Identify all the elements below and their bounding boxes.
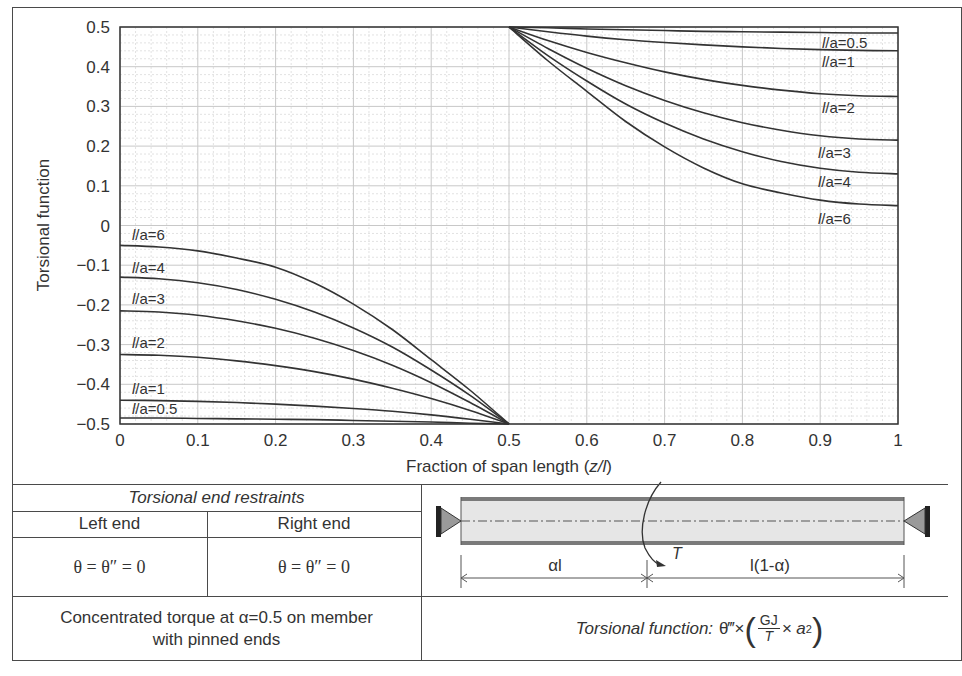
left-end-header: Left end [12, 511, 207, 537]
case-description-line2: with pinned ends [153, 629, 281, 651]
curve-label: l/a=4 [818, 173, 851, 190]
y-tick-label: −0.3 [76, 336, 110, 355]
beam-diagram: T αl l(1-α) [436, 482, 930, 588]
case-description-line1: Concentrated torque at α=0.5 on member [60, 607, 373, 629]
y-tick-label: −0.5 [76, 415, 110, 434]
curve-label: l/a=1 [132, 380, 165, 397]
y-tick-label: 0 [101, 217, 110, 236]
left-pin-support-icon [436, 506, 461, 537]
right-pin-support-icon [904, 506, 930, 537]
dimension-lines [461, 555, 904, 588]
y-tick-label: −0.4 [76, 375, 110, 394]
y-tick-label: 0.2 [86, 137, 110, 156]
curve-label: l/a=6 [818, 210, 851, 227]
left-end-condition: θ = θ″ = 0 [12, 537, 207, 596]
curve-label: l/a=0.5 [132, 400, 177, 417]
y-tick-label: 0.5 [86, 18, 110, 37]
x-tick-label: 0.2 [264, 431, 288, 450]
x-tick-label: 0 [115, 431, 124, 450]
y-tick-label: −0.1 [76, 256, 110, 275]
x-axis-title: Fraction of span length (z/l) [406, 457, 612, 476]
curve-l-a-0.5 [120, 418, 509, 424]
dimension-l-one-minus-alpha: l(1-α) [750, 556, 790, 575]
curve-l-a-3 [120, 311, 509, 424]
x-tick-label: 0.3 [342, 431, 366, 450]
curve-label: l/a=2 [132, 334, 165, 351]
formula-numerator: GJ [758, 613, 780, 629]
y-tick-label: 0.4 [86, 58, 110, 77]
right-end-condition: θ = θ″ = 0 [207, 537, 421, 596]
case-description: Concentrated torque at α=0.5 on member w… [12, 596, 421, 661]
dimension-alpha-l: αl [548, 556, 562, 575]
formula-prefix: Torsional function: [576, 618, 713, 640]
formula-theta: θ‴× [719, 618, 744, 640]
x-tick-label: 0.4 [419, 431, 443, 450]
curve-labels-left: l/a=6l/a=4l/a=3l/a=2l/a=1l/a=0.5 [132, 226, 177, 417]
curve-label: l/a=6 [132, 226, 165, 243]
beam-top-flange [461, 497, 904, 501]
formula-denominator: T [764, 629, 773, 644]
x-tick-label: 0.6 [575, 431, 599, 450]
y-tick-label: −0.2 [76, 296, 110, 315]
formula-open-paren: ( [744, 612, 755, 646]
curve-l-a-6 [120, 245, 509, 424]
restraints-header: Torsional end restraints [12, 484, 421, 511]
x-tick-label: 0.1 [186, 431, 210, 450]
curve-label: l/a=3 [818, 144, 851, 161]
curve-l-a-2 [120, 355, 509, 424]
curve-label: l/a=1 [822, 53, 855, 70]
curve-label: l/a=0.5 [822, 34, 867, 51]
x-tick-label: 0.9 [808, 431, 832, 450]
curve-l-a-4 [120, 277, 509, 424]
grid-major [120, 27, 898, 424]
x-tick-labels: 00.10.20.30.40.50.60.70.80.91 [115, 431, 902, 450]
x-tick-label: 0.5 [497, 431, 521, 450]
x-tick-label: 1 [893, 431, 902, 450]
curve-label: l/a=4 [132, 259, 165, 276]
formula-tail: × a [782, 618, 806, 640]
curve-l-a-0.5 [509, 27, 898, 33]
formula-fraction: GJ T [758, 613, 780, 644]
y-tick-labels: 0.50.40.30.20.10−0.1−0.2−0.3−0.4−0.5 [76, 18, 110, 434]
y-axis-title: Torsional function [34, 159, 53, 291]
formula-close-paren: ) [812, 612, 823, 646]
x-tick-label: 0.8 [731, 431, 755, 450]
beam-bottom-flange [461, 541, 904, 545]
torque-label: T [672, 545, 683, 562]
y-tick-label: 0.3 [86, 97, 110, 116]
curve-label: l/a=3 [132, 290, 165, 307]
y-tick-label: 0.1 [86, 177, 110, 196]
torsional-function-formula: Torsional function: θ‴× ( GJ T × a2 ) [421, 596, 948, 661]
right-end-header: Right end [207, 511, 421, 537]
x-tick-label: 0.7 [653, 431, 677, 450]
curve-label: l/a=2 [822, 99, 855, 116]
